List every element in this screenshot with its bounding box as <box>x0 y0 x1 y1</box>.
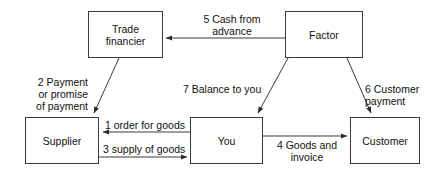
edge-label-5-cash-from-advance: 5 Cash from advance <box>172 13 292 37</box>
edge-label-2-payment-or-promise: 2 Payment or promise of payment <box>0 76 88 112</box>
node-supplier-label: Supplier <box>43 135 82 147</box>
node-factor-label: Factor <box>309 29 339 41</box>
node-customer-label: Customer <box>362 135 408 147</box>
node-trade-financier-label: Trade financier <box>106 23 146 47</box>
node-you[interactable]: You <box>190 117 263 164</box>
node-factor[interactable]: Factor <box>285 11 363 58</box>
node-customer[interactable]: Customer <box>350 117 420 164</box>
connector-2-payment-or-promise <box>94 58 119 113</box>
edge-label-7-balance-to-you: 7 Balance to you <box>183 83 273 95</box>
edge-label-4-goods-and-invoice: 4 Goods and invoice <box>265 139 349 163</box>
node-you-label: You <box>218 135 236 147</box>
node-trade-financier[interactable]: Trade financier <box>88 11 163 58</box>
edge-label-3-supply-of-goods: 3 supply of goods <box>103 143 193 155</box>
node-supplier[interactable]: Supplier <box>25 117 99 164</box>
edge-label-1-order-for-goods: 1 order for goods <box>105 119 193 131</box>
edge-label-6-customer-payment: 6 Customer payment <box>365 83 443 107</box>
flow-diagram: Trade financier Factor Supplier You Cust… <box>0 0 444 174</box>
